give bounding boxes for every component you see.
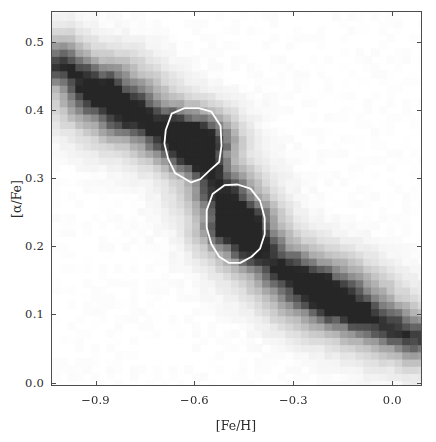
y-tick-label: 0.4 bbox=[25, 103, 44, 117]
y-tick-label: 0.0 bbox=[25, 376, 44, 390]
y-tick bbox=[51, 42, 56, 43]
y-tick-right bbox=[417, 314, 422, 315]
y-tick-right bbox=[417, 178, 422, 179]
x-tick-top bbox=[293, 11, 294, 16]
contour-overlay bbox=[52, 12, 422, 386]
y-tick bbox=[51, 178, 56, 179]
x-tick bbox=[96, 381, 97, 386]
plot-area bbox=[51, 11, 422, 386]
y-tick-label: 0.3 bbox=[25, 171, 44, 185]
x-tick-top bbox=[392, 11, 393, 16]
x-tick bbox=[392, 381, 393, 386]
y-tick-label: 0.2 bbox=[25, 239, 44, 253]
y-tick bbox=[51, 110, 56, 111]
x-tick bbox=[293, 381, 294, 386]
high-alpha-contour bbox=[164, 108, 221, 182]
x-tick-label: 0.0 bbox=[383, 393, 402, 407]
x-tick-label: −0.6 bbox=[180, 393, 209, 407]
x-tick-top bbox=[194, 11, 195, 16]
y-tick-right bbox=[417, 42, 422, 43]
x-tick bbox=[194, 381, 195, 386]
y-tick bbox=[51, 314, 56, 315]
x-axis-title: [Fe/H] bbox=[216, 418, 256, 433]
y-tick bbox=[51, 383, 56, 384]
y-tick-label: 0.5 bbox=[25, 35, 44, 49]
low-alpha-contour bbox=[207, 185, 265, 263]
y-tick-right bbox=[417, 246, 422, 247]
x-tick-label: −0.3 bbox=[279, 393, 308, 407]
y-tick bbox=[51, 246, 56, 247]
y-tick-right bbox=[417, 110, 422, 111]
figure-root: −0.9−0.6−0.30.0 0.00.10.20.30.40.5 [Fe/H… bbox=[0, 0, 436, 442]
y-tick-right bbox=[417, 383, 422, 384]
x-tick-label: −0.9 bbox=[81, 393, 110, 407]
y-tick-label: 0.1 bbox=[25, 307, 44, 321]
y-axis-title: [α/Fe] bbox=[9, 180, 24, 218]
x-tick-top bbox=[96, 11, 97, 16]
